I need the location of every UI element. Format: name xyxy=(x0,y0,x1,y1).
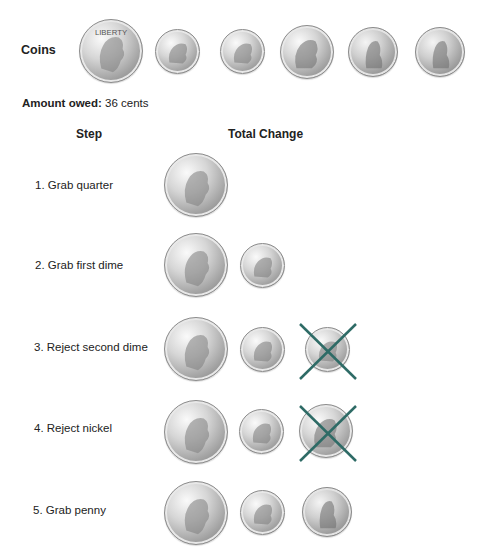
dime-coin-icon xyxy=(305,327,350,372)
svg-text:LIBERTY: LIBERTY xyxy=(95,28,127,37)
step-label: 4. Reject nickel xyxy=(34,422,112,434)
penny-coin-icon xyxy=(302,487,352,537)
dime-coin-icon xyxy=(240,243,285,288)
dime-coin-icon xyxy=(240,490,285,535)
step-label: 1. Grab quarter xyxy=(35,179,113,191)
quarter-coin-icon xyxy=(164,400,228,464)
quarter-coin-icon: LIBERTY xyxy=(79,19,143,83)
dime-coin-icon xyxy=(240,327,285,372)
coins-label: Coins xyxy=(21,43,56,57)
quarter-coin-icon xyxy=(164,317,228,381)
step-header: Step xyxy=(76,127,102,141)
dime-coin-icon xyxy=(239,409,284,454)
penny-coin-icon xyxy=(348,27,398,77)
step-label: 5. Grab penny xyxy=(33,504,106,516)
dime-coin-icon xyxy=(220,29,265,74)
amount-owed-label: Amount owed: xyxy=(22,97,102,109)
nickel-coin-icon xyxy=(299,404,353,458)
amount-owed-value: 36 cents xyxy=(105,97,148,109)
step-label: 3. Reject second dime xyxy=(34,341,148,353)
quarter-coin-icon xyxy=(164,481,228,545)
quarter-coin-icon xyxy=(164,153,228,217)
nickel-coin-icon xyxy=(280,25,334,79)
quarter-coin-icon xyxy=(164,233,228,297)
total-change-header: Total Change xyxy=(228,127,303,141)
amount-owed: Amount owed: 36 cents xyxy=(22,97,149,109)
penny-coin-icon xyxy=(415,27,465,77)
step-label: 2. Grab first dime xyxy=(35,259,123,271)
dime-coin-icon xyxy=(155,29,200,74)
